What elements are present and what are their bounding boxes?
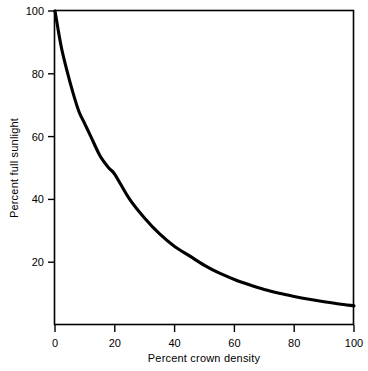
y-tick-label: 100 [26, 5, 44, 17]
data-curve-sunlight [55, 11, 354, 306]
y-axis-title: Percent full sunlight [8, 118, 20, 218]
y-axis-tick-labels: 20406080100 [26, 5, 44, 268]
x-tick-label: 0 [52, 337, 58, 349]
x-axis-tick-labels: 020406080100 [52, 337, 363, 349]
x-tick-label: 20 [109, 337, 121, 349]
x-tick-label: 80 [288, 337, 300, 349]
x-tick-label: 60 [228, 337, 240, 349]
x-axis-ticks [55, 325, 354, 332]
y-tick-label: 60 [32, 131, 44, 143]
y-tick-label: 80 [32, 68, 44, 80]
x-tick-label: 100 [345, 337, 363, 349]
line-chart: 20406080100 020406080100 Percent crown d… [0, 0, 368, 371]
figure-canvas: 20406080100 020406080100 Percent crown d… [0, 0, 368, 371]
x-tick-label: 40 [168, 337, 180, 349]
y-tick-label: 20 [32, 256, 44, 268]
x-axis-title: Percent crown density [148, 352, 261, 364]
y-tick-label: 40 [32, 193, 44, 205]
plot-frame [55, 11, 354, 325]
